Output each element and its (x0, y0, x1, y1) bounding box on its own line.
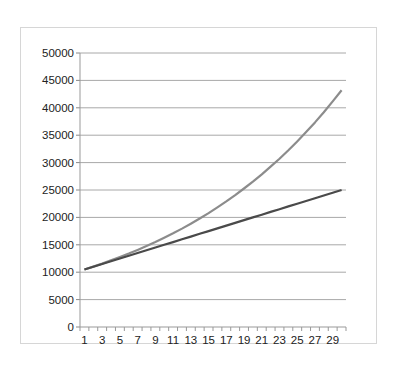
x-tick-label: 17 (220, 334, 233, 346)
y-axis: 0500010000150002000025000300003500040000… (42, 47, 80, 333)
x-tick-label: 13 (184, 334, 197, 346)
y-tick-label: 20000 (42, 211, 74, 223)
series-line (84, 90, 341, 269)
series-line (84, 190, 341, 270)
x-tick-label: 29 (326, 334, 339, 346)
y-tick-label: 30000 (42, 157, 74, 169)
gridlines (80, 53, 346, 300)
x-tick-label: 23 (273, 334, 286, 346)
y-tick-label: 0 (68, 321, 74, 333)
y-tick-label: 25000 (42, 184, 74, 196)
y-tick-label: 5000 (48, 294, 74, 306)
x-tick-label: 25 (291, 334, 304, 346)
x-axis: 1357911131517192123252729 (80, 327, 346, 346)
series-lines (84, 90, 341, 269)
x-tick-label: 11 (167, 334, 179, 346)
x-tick-label: 1 (81, 334, 87, 346)
x-tick-label: 21 (255, 334, 268, 346)
x-tick-label: 15 (202, 334, 215, 346)
y-tick-label: 45000 (42, 74, 74, 86)
x-tick-label: 27 (309, 334, 322, 346)
line-chart: 0500010000150002000025000300003500040000… (0, 0, 399, 386)
x-tick-label: 5 (117, 334, 123, 346)
x-tick-label: 19 (238, 334, 251, 346)
y-tick-label: 50000 (42, 47, 74, 59)
x-tick-label: 9 (152, 334, 158, 346)
y-tick-label: 40000 (42, 102, 74, 114)
y-tick-label: 35000 (42, 129, 74, 141)
y-tick-label: 15000 (42, 239, 74, 251)
y-tick-label: 10000 (42, 266, 74, 278)
x-tick-label: 3 (99, 334, 105, 346)
x-tick-label: 7 (134, 334, 140, 346)
